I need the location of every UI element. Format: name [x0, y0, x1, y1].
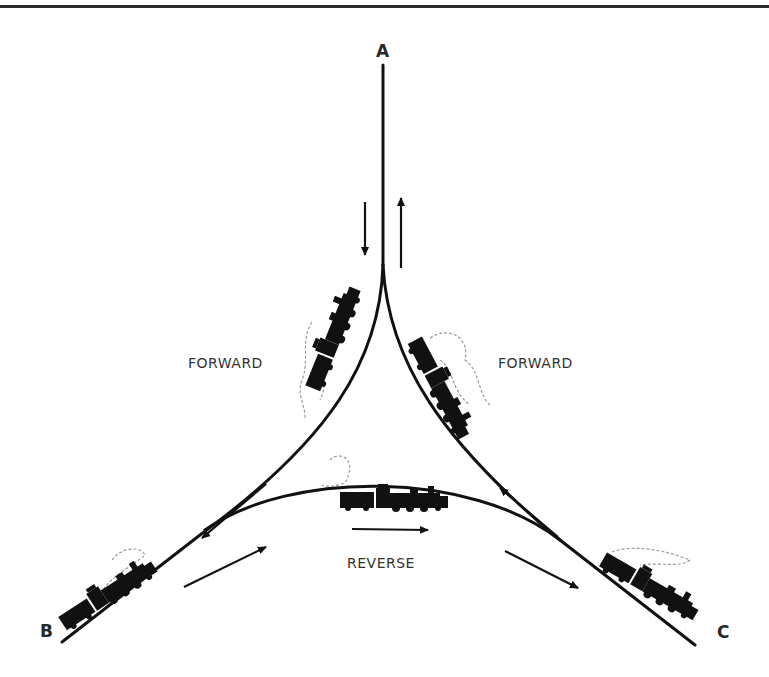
- arrow-c-down-right: [505, 551, 578, 588]
- direction-arrows: [184, 198, 578, 588]
- point-c-label: C: [717, 622, 729, 642]
- steam-locomotive-icon: [54, 551, 160, 633]
- train-right-forward: [404, 333, 479, 442]
- arrow-reverse-right: [352, 529, 428, 530]
- arrow-b-up-right: [184, 547, 266, 587]
- forward-left-label: FORWARD: [188, 355, 263, 371]
- train-b-branch: [54, 551, 160, 633]
- point-b-label: B: [40, 621, 53, 641]
- wye-track-diagram: [0, 0, 769, 677]
- reverse-label: REVERSE: [347, 555, 415, 571]
- arrow-b-down-left: [202, 484, 266, 538]
- steam-locomotive-icon: [404, 333, 479, 442]
- forward-right-label: FORWARD: [498, 355, 573, 371]
- point-a-label: A: [376, 41, 389, 61]
